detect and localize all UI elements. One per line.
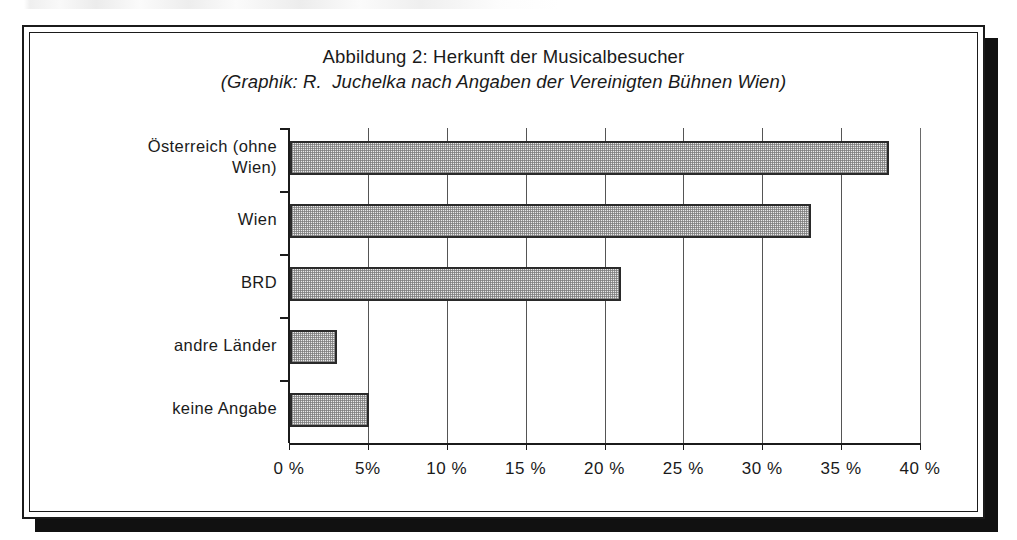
x-tick-10pct xyxy=(447,443,448,450)
gridline-25pct xyxy=(683,128,684,443)
gridline-35pct xyxy=(841,128,842,443)
gridline-30pct xyxy=(762,128,763,443)
x-tick-0pct xyxy=(289,443,290,450)
gridline-40pct xyxy=(920,128,921,443)
bar-4 xyxy=(290,393,369,427)
x-tick-label-40pct: 40 % xyxy=(875,459,965,479)
x-tick-35pct xyxy=(841,443,842,450)
x-tick-label-25pct: 25 % xyxy=(638,459,728,479)
y-axis-top-cap xyxy=(280,128,289,130)
category-label-2: BRD xyxy=(17,272,277,293)
x-tick-5pct xyxy=(368,443,369,450)
chart-subtitle: (Graphik: R. Juchelka nach Angaben der V… xyxy=(30,69,977,94)
category-label-3: andre Länder xyxy=(17,335,277,356)
bar-1 xyxy=(290,204,811,238)
x-tick-label-20pct: 20 % xyxy=(560,459,650,479)
scan-artifact-strip xyxy=(0,0,1017,9)
figure-frame: Abbildung 2: Herkunft der Musicalbesuche… xyxy=(22,25,985,519)
figure-titles: Abbildung 2: Herkunft der Musicalbesuche… xyxy=(30,45,977,94)
plot-area: Österreich (ohne Wien)WienBRDandre Lände… xyxy=(289,128,920,443)
y-tick-1 xyxy=(280,254,289,256)
x-tick-label-5pct: 5% xyxy=(323,459,413,479)
figure-inner-border: Abbildung 2: Herkunft der Musicalbesuche… xyxy=(29,32,978,512)
x-tick-30pct xyxy=(762,443,763,450)
y-tick-0 xyxy=(280,191,289,193)
y-tick-2 xyxy=(280,317,289,319)
x-tick-15pct xyxy=(526,443,527,450)
x-tick-label-30pct: 30 % xyxy=(717,459,807,479)
bar-3 xyxy=(290,330,337,364)
bar-2 xyxy=(290,267,621,301)
y-tick-3 xyxy=(280,380,289,382)
x-tick-40pct xyxy=(920,443,921,450)
x-tick-label-35pct: 35 % xyxy=(796,459,886,479)
x-tick-label-0pct: 0 % xyxy=(244,459,334,479)
x-tick-25pct xyxy=(683,443,684,450)
x-tick-label-15pct: 15 % xyxy=(481,459,571,479)
chart-title: Abbildung 2: Herkunft der Musicalbesuche… xyxy=(30,45,977,69)
category-label-1: Wien xyxy=(17,209,277,230)
x-tick-20pct xyxy=(605,443,606,450)
x-tick-label-10pct: 10 % xyxy=(402,459,492,479)
category-label-0: Österreich (ohne Wien) xyxy=(17,136,277,178)
bar-0 xyxy=(290,141,889,175)
category-label-4: keine Angabe xyxy=(17,398,277,419)
